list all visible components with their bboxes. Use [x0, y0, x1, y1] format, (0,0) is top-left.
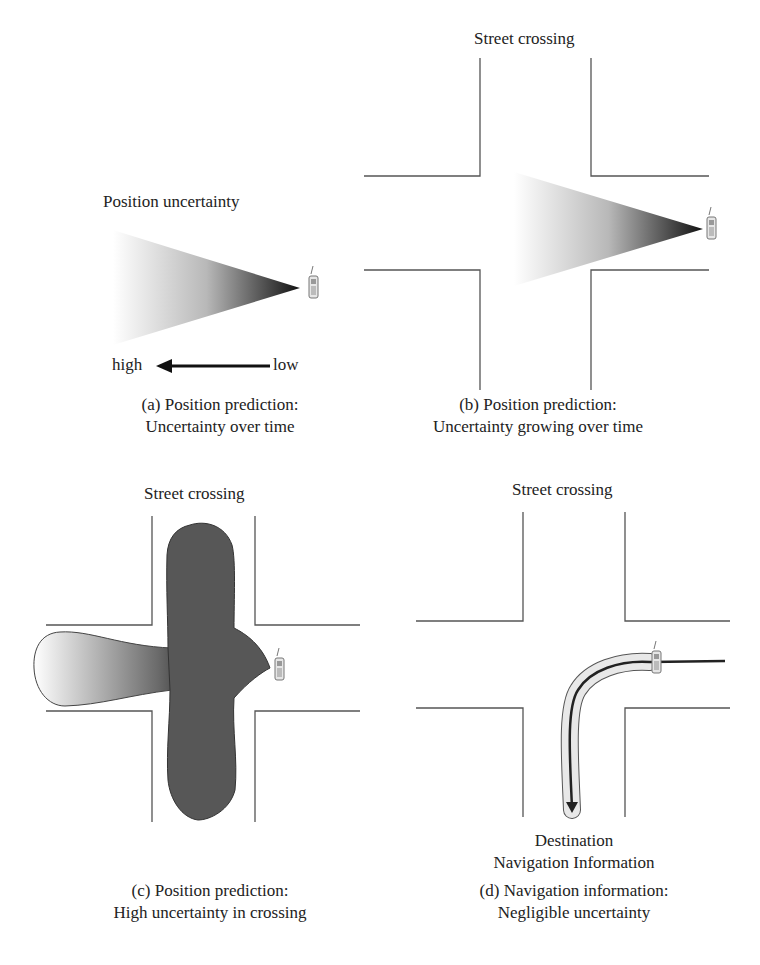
panel-a-title: Position uncertainty	[103, 192, 239, 212]
uncertainty-cone-b	[514, 172, 703, 286]
caption-b-line2: Uncertainty growing over time	[388, 416, 688, 438]
destination-label: Destination Navigation Information	[424, 830, 724, 874]
low-label: low	[273, 355, 299, 375]
caption-a-line2: Uncertainty over time	[70, 416, 370, 438]
caption-a: (a) Position prediction: Uncertainty ove…	[70, 394, 370, 438]
caption-c-line1: (c) Position prediction:	[60, 880, 360, 902]
caption-b: (b) Position prediction: Uncertainty gro…	[388, 394, 688, 438]
nav-info-text: Navigation Information	[424, 852, 724, 874]
panel-b-title: Street crossing	[474, 29, 575, 49]
caption-b-line1: (b) Position prediction:	[388, 394, 688, 416]
diagram-canvas	[0, 0, 760, 965]
caption-c: (c) Position prediction: High uncertaint…	[60, 880, 360, 924]
caption-c-line2: High uncertainty in crossing	[60, 902, 360, 924]
caption-a-line1: (a) Position prediction:	[70, 394, 370, 416]
uncertainty-blob-arm	[34, 632, 172, 706]
panel-a	[113, 230, 318, 373]
panel-c-title: Street crossing	[144, 484, 245, 504]
destination-text: Destination	[424, 830, 724, 852]
mobile-phone-icon	[309, 266, 318, 298]
mobile-phone-icon	[707, 207, 716, 239]
mobile-phone-icon	[652, 641, 661, 673]
caption-d-line2: Negligible uncertainty	[424, 902, 724, 924]
mobile-phone-icon	[275, 648, 284, 680]
arrow-left-icon	[156, 359, 270, 373]
high-label: high	[112, 355, 142, 375]
uncertainty-cone	[113, 230, 300, 345]
panel-d-title: Street crossing	[512, 480, 613, 500]
caption-d-line1: (d) Navigation information:	[424, 880, 724, 902]
caption-d: (d) Navigation information: Negligible u…	[424, 880, 724, 924]
